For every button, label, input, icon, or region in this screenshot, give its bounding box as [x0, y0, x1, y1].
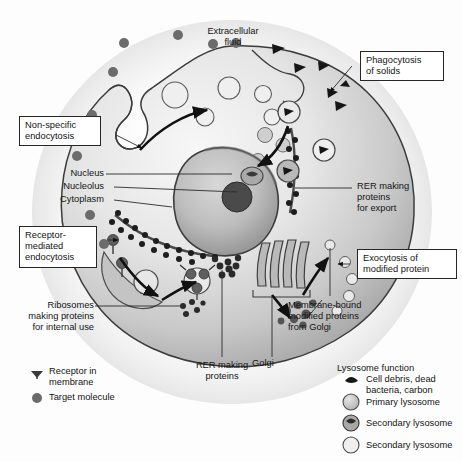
- diagram-canvas: Extracellular fluid Non-specific endocyt…: [0, 0, 462, 461]
- label-cytoplasm: Cytoplasm: [40, 194, 104, 205]
- label-receptor-mediated-endocytosis: Receptor- mediated endocytosis: [19, 226, 97, 268]
- cell-debris-glyph: [345, 377, 358, 383]
- nucleolus-shape: [222, 182, 252, 212]
- legend-right-item-cell-debris: Cell debris, dead bacteria, carbon: [366, 374, 460, 396]
- label-membrane-bound-modified-proteins: Membrane-bound modified proteins from Go…: [288, 300, 384, 334]
- label-nucleus: Nucleus: [48, 168, 104, 179]
- secondary-lysosome-light-glyph: [343, 437, 359, 453]
- primary-lysosome-glyph: [343, 394, 359, 410]
- legend-right-item-secondary-lysosome-light: Secondary lysosome: [366, 440, 462, 451]
- label-phagocytosis-of-solids: Phagocytosis of solids: [360, 51, 444, 81]
- legend-left-item-receptor: Receptor in membrane: [49, 366, 143, 388]
- legend-right-glyphs: [343, 377, 359, 453]
- label-exocytosis-of-modified-protein: Exocytosis of modified protein: [357, 249, 457, 279]
- label-extracellular-fluid: Extracellular fluid: [190, 26, 276, 48]
- legend-left-item-target-molecule: Target molecule: [49, 392, 159, 403]
- legend-left-glyphs: [31, 371, 43, 403]
- label-non-specific-endocytosis: Non-specific endocytosis: [19, 116, 101, 146]
- label-rer-making-proteins-for-export: RER making proteins for export: [357, 181, 449, 215]
- label-nucleolus: Nucleolus: [40, 181, 104, 192]
- legend-right-item-secondary-lysosome-dark: Secondary lysosome: [366, 418, 462, 429]
- secondary-lysosome-dark-glyph: [343, 415, 359, 431]
- label-ribosomes-making-proteins: Ribosomes making proteins for internal u…: [8, 300, 94, 334]
- filled-circle-glyph: [32, 393, 42, 403]
- label-golgi: Golgi: [252, 358, 292, 369]
- legend-right-item-primary-lysosome: Primary lysosome: [366, 397, 462, 408]
- legend-right-title: Lysosome function: [337, 363, 455, 373]
